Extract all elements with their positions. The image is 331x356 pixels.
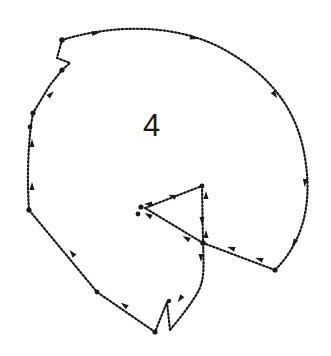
waypoint-dot: [95, 290, 100, 295]
waypoint-dot: [136, 212, 141, 217]
arrow-icon: [30, 182, 35, 190]
waypoint-dot: [200, 240, 206, 246]
waypoint-dot: [59, 37, 65, 43]
arrow-icon: [204, 191, 209, 199]
trajectory-canvas: [0, 0, 331, 356]
arrow-icon: [254, 255, 263, 262]
arrow-icon: [46, 89, 55, 98]
waypoint-dot: [28, 125, 33, 130]
figure-label: 4: [143, 110, 160, 141]
waypoint-dots: [26, 37, 277, 334]
waypoint-dot: [167, 299, 171, 303]
waypoint-dot: [26, 207, 31, 212]
trajectory-cusp: [155, 302, 170, 332]
waypoint-dot: [138, 204, 143, 209]
waypoint-dot: [59, 67, 64, 72]
trajectory-return-leg: [203, 243, 275, 270]
waypoint-dot: [200, 184, 205, 189]
waypoint-dot: [272, 267, 277, 272]
trajectory-triangle-lower: [145, 208, 203, 243]
arrow-icon: [200, 217, 205, 225]
arrow-icon: [226, 244, 235, 251]
trajectory-outer-arc: [62, 29, 308, 270]
waypoint-dot: [30, 110, 35, 115]
arrow-icon: [68, 248, 77, 257]
arrow-icon: [176, 294, 185, 303]
arrow-icon: [204, 230, 209, 238]
trajectory-triangle-right: [170, 186, 204, 330]
trajectory-left-side: [28, 40, 155, 332]
waypoint-dot: [152, 329, 157, 334]
